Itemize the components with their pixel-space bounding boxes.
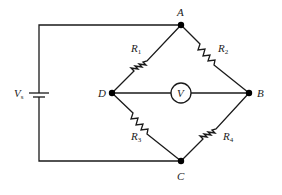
voltmeter-label: V bbox=[177, 87, 185, 99]
r3-label: R3 bbox=[130, 130, 142, 144]
wheatstone-bridge-diagram: V A B C D R1 R2 R3 R4 Vs bbox=[0, 0, 282, 195]
node-b-label: B bbox=[257, 87, 264, 99]
r1-label: R1 bbox=[130, 42, 142, 56]
r4-label: R4 bbox=[222, 130, 234, 144]
top-wire bbox=[39, 25, 181, 93]
source-label: Vs bbox=[14, 87, 24, 101]
resistor-r1 bbox=[112, 25, 181, 93]
node-d-label: D bbox=[97, 87, 106, 99]
node-c bbox=[178, 158, 184, 164]
node-a bbox=[178, 22, 184, 28]
node-d bbox=[109, 90, 115, 96]
node-c-label: C bbox=[177, 170, 185, 182]
r2-label: R2 bbox=[217, 42, 229, 56]
bottom-wire bbox=[39, 97, 181, 161]
resistor-r4 bbox=[181, 93, 249, 161]
resistor-r2 bbox=[181, 25, 249, 93]
node-a-label: A bbox=[176, 6, 184, 18]
node-b bbox=[246, 90, 252, 96]
resistor-r3 bbox=[112, 93, 181, 161]
